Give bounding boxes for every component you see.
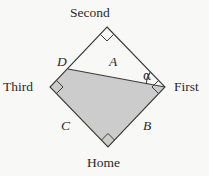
geometry-figure: Second Third First Home A B C D α <box>0 0 209 176</box>
region-label-a: A <box>109 55 117 69</box>
side-label-c: C <box>61 119 70 133</box>
vertex-label-third: Third <box>3 80 33 94</box>
right-angle-marker-second <box>101 35 114 42</box>
vertex-label-home: Home <box>87 156 120 170</box>
side-label-b: B <box>143 119 151 133</box>
vertex-label-first: First <box>174 80 199 94</box>
angle-label-alpha: α <box>143 70 151 82</box>
point-label-d: D <box>57 55 67 69</box>
vertex-label-second: Second <box>70 6 110 20</box>
